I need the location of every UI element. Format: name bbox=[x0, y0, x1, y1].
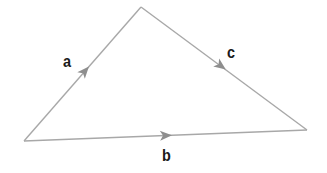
label-b: b bbox=[162, 147, 171, 164]
label-a: a bbox=[63, 53, 71, 70]
vector-triangle-diagram: a c b bbox=[0, 0, 327, 173]
label-c: c bbox=[227, 44, 235, 61]
edge-a bbox=[24, 7, 141, 141]
